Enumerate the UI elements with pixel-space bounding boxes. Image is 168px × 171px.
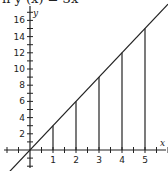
x-tick-label: 4	[119, 155, 125, 165]
x-tick-label: 1	[50, 155, 56, 165]
y-axis-label: y	[32, 8, 39, 18]
x-tick-label: 5	[142, 155, 148, 165]
x-tick-label: 2	[73, 155, 79, 165]
x-axis-label: x	[160, 138, 165, 148]
y-tick-label: 8	[19, 80, 25, 90]
y-tick-label: 10	[14, 64, 26, 74]
y-tick-label: 6	[19, 96, 25, 106]
y-tick-label: 14	[14, 32, 26, 42]
y-tick-label: 4	[19, 113, 25, 123]
y-tick-label: 16	[14, 15, 26, 25]
line-chart: 12345246810121416xy	[0, 0, 168, 171]
function-line	[7, 4, 168, 171]
y-tick-label: 12	[14, 48, 25, 58]
y-tick-label: 2	[19, 129, 25, 139]
x-tick-label: 3	[96, 155, 102, 165]
